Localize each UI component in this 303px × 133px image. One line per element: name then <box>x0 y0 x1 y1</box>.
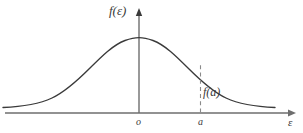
density-curve-figure: f(ε) ε o a f(a) <box>0 0 303 133</box>
figure-canvas <box>0 0 303 133</box>
x-axis-label: ε <box>288 117 292 128</box>
y-axis-label: f(ε) <box>109 4 126 17</box>
value-at-a-label: f(a) <box>203 86 220 98</box>
a-tick-label: a <box>198 117 203 127</box>
y-axis-arrow-icon <box>136 8 142 16</box>
origin-label: o <box>136 117 141 127</box>
